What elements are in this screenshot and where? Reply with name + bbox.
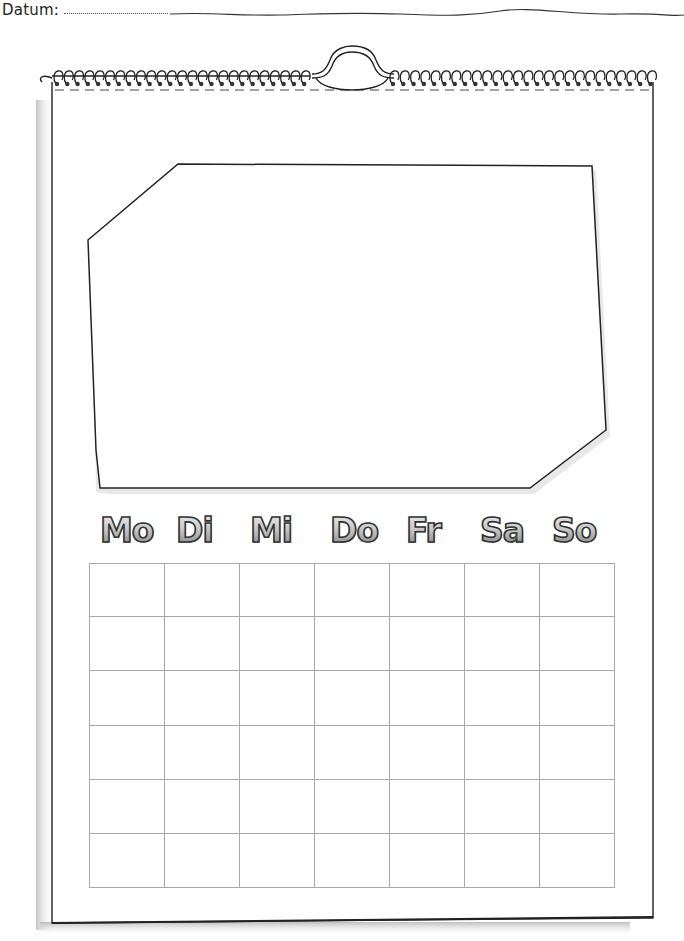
worksheet-header: Datum: <box>0 0 684 24</box>
day-cell[interactable] <box>465 563 540 617</box>
date-field[interactable] <box>64 13 168 14</box>
day-cell[interactable] <box>89 780 165 834</box>
day-cell[interactable] <box>465 671 540 725</box>
day-cell[interactable] <box>315 780 390 834</box>
photo-frame <box>88 164 606 488</box>
day-cell[interactable] <box>465 780 540 834</box>
day-cell[interactable] <box>165 617 240 671</box>
day-cell[interactable] <box>165 726 240 780</box>
weekday-mo: Mo <box>100 508 154 554</box>
date-label: Datum: <box>2 1 59 19</box>
weekday-sa: Sa <box>480 508 524 554</box>
day-cell[interactable] <box>165 563 240 617</box>
wall-calendar: Mo Di Mi Do Fr Sa So <box>0 30 684 941</box>
day-cell[interactable] <box>240 726 315 780</box>
day-cell[interactable] <box>240 671 315 725</box>
day-cell[interactable] <box>465 726 540 780</box>
day-cell[interactable] <box>540 563 615 617</box>
day-cell[interactable] <box>89 671 165 725</box>
calendar-grid <box>89 563 615 888</box>
day-cell[interactable] <box>390 671 465 725</box>
day-cell[interactable] <box>89 563 165 617</box>
day-cell[interactable] <box>390 834 465 888</box>
day-cell[interactable] <box>165 780 240 834</box>
weekday-do: Do <box>330 508 378 554</box>
day-cell[interactable] <box>240 563 315 617</box>
day-cell[interactable] <box>540 671 615 725</box>
day-cell[interactable] <box>315 563 390 617</box>
grid-row <box>89 780 615 834</box>
weekday-so: So <box>552 508 596 554</box>
day-cell[interactable] <box>89 726 165 780</box>
grid-row <box>89 834 615 888</box>
day-cell[interactable] <box>540 726 615 780</box>
name-line <box>170 6 684 20</box>
grid-row <box>89 563 615 617</box>
day-cell[interactable] <box>390 726 465 780</box>
grid-row <box>89 617 615 671</box>
grid-row <box>89 726 615 780</box>
day-cell[interactable] <box>540 617 615 671</box>
day-cell[interactable] <box>390 617 465 671</box>
day-cell[interactable] <box>165 834 240 888</box>
day-cell[interactable] <box>89 617 165 671</box>
bottom-shadow <box>40 922 630 936</box>
weekday-di: Di <box>176 508 213 554</box>
grid-row <box>89 671 615 725</box>
weekday-mi: Mi <box>250 508 292 554</box>
day-cell[interactable] <box>240 834 315 888</box>
day-cell[interactable] <box>540 834 615 888</box>
day-cell[interactable] <box>390 780 465 834</box>
day-cell[interactable] <box>390 563 465 617</box>
day-cell[interactable] <box>465 834 540 888</box>
weekday-header: Mo Di Mi Do Fr Sa So <box>88 508 618 554</box>
day-cell[interactable] <box>315 726 390 780</box>
day-cell[interactable] <box>315 671 390 725</box>
day-cell[interactable] <box>315 617 390 671</box>
day-cell[interactable] <box>89 834 165 888</box>
day-cell[interactable] <box>465 617 540 671</box>
day-cell[interactable] <box>240 617 315 671</box>
weekday-fr: Fr <box>406 508 441 554</box>
day-cell[interactable] <box>315 834 390 888</box>
day-cell[interactable] <box>540 780 615 834</box>
day-cell[interactable] <box>165 671 240 725</box>
day-cell[interactable] <box>240 780 315 834</box>
